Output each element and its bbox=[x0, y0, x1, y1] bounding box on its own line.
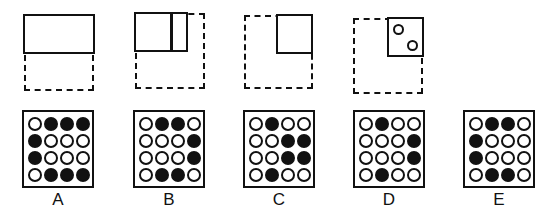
empty-circle-icon bbox=[297, 117, 311, 131]
empty-circle-icon bbox=[249, 134, 263, 148]
filled-circle-icon bbox=[155, 168, 169, 182]
empty-circle-icon bbox=[265, 151, 279, 165]
empty-circle-icon bbox=[155, 134, 169, 148]
empty-circle-icon bbox=[517, 134, 531, 148]
filled-circle-icon bbox=[469, 134, 483, 148]
empty-circle-icon bbox=[139, 134, 153, 148]
empty-circle-icon bbox=[44, 134, 58, 148]
empty-circle-icon bbox=[171, 151, 185, 165]
empty-circle-icon bbox=[469, 168, 483, 182]
option-label: C bbox=[259, 190, 299, 208]
filled-circle-icon bbox=[265, 117, 279, 131]
empty-circle-icon bbox=[187, 117, 201, 131]
empty-circle-icon bbox=[76, 134, 90, 148]
empty-circle-icon bbox=[187, 168, 201, 182]
filled-circle-icon bbox=[407, 134, 421, 148]
fig4-solid-square bbox=[387, 17, 424, 57]
option-grid-c[interactable] bbox=[243, 110, 315, 188]
filled-circle-icon bbox=[76, 168, 90, 182]
empty-circle-icon bbox=[249, 168, 263, 182]
fig3-solid-square bbox=[276, 14, 313, 54]
empty-circle-icon bbox=[391, 151, 405, 165]
empty-circle-icon bbox=[139, 117, 153, 131]
option-label: A bbox=[38, 190, 78, 208]
filled-circle-icon bbox=[407, 151, 421, 165]
empty-circle-icon bbox=[171, 134, 185, 148]
empty-circle-icon bbox=[501, 134, 515, 148]
filled-circle-icon bbox=[28, 134, 42, 148]
fig1-solid-rect bbox=[23, 14, 95, 54]
option-grid-e[interactable] bbox=[463, 110, 535, 188]
empty-circle-icon bbox=[407, 168, 421, 182]
filled-circle-icon bbox=[501, 117, 515, 131]
filled-circle-icon bbox=[28, 151, 42, 165]
filled-circle-icon bbox=[375, 117, 389, 131]
empty-circle-icon bbox=[76, 151, 90, 165]
option-grid-a[interactable] bbox=[22, 110, 94, 188]
filled-circle-icon bbox=[60, 168, 74, 182]
option-label: D bbox=[369, 190, 409, 208]
empty-circle-icon bbox=[359, 168, 373, 182]
empty-circle-icon bbox=[249, 117, 263, 131]
empty-circle-icon bbox=[391, 168, 405, 182]
empty-circle-icon bbox=[407, 117, 421, 131]
empty-circle-icon bbox=[60, 151, 74, 165]
empty-circle-icon bbox=[139, 151, 153, 165]
filled-circle-icon bbox=[485, 168, 499, 182]
filled-circle-icon bbox=[501, 168, 515, 182]
empty-circle-icon bbox=[281, 168, 295, 182]
empty-circle-icon bbox=[375, 134, 389, 148]
filled-circle-icon bbox=[171, 117, 185, 131]
filled-circle-icon bbox=[171, 168, 185, 182]
filled-circle-icon bbox=[297, 151, 311, 165]
empty-circle-icon bbox=[139, 168, 153, 182]
empty-circle-icon bbox=[297, 168, 311, 182]
filled-circle-icon bbox=[155, 117, 169, 131]
filled-circle-icon bbox=[44, 117, 58, 131]
option-grid-b[interactable] bbox=[133, 110, 205, 188]
empty-circle-icon bbox=[265, 134, 279, 148]
filled-circle-icon bbox=[187, 151, 201, 165]
empty-circle-icon bbox=[359, 151, 373, 165]
empty-circle-icon bbox=[501, 151, 515, 165]
empty-circle-icon bbox=[359, 117, 373, 131]
filled-circle-icon bbox=[265, 168, 279, 182]
filled-circle-icon bbox=[297, 134, 311, 148]
empty-circle-icon bbox=[517, 168, 531, 182]
filled-circle-icon bbox=[375, 168, 389, 182]
empty-circle-icon bbox=[28, 168, 42, 182]
filled-circle-icon bbox=[187, 134, 201, 148]
fig4-circle-icon bbox=[393, 24, 404, 35]
empty-circle-icon bbox=[375, 151, 389, 165]
option-label: B bbox=[149, 190, 189, 208]
empty-circle-icon bbox=[44, 151, 58, 165]
filled-circle-icon bbox=[44, 168, 58, 182]
empty-circle-icon bbox=[469, 117, 483, 131]
empty-circle-icon bbox=[517, 117, 531, 131]
empty-circle-icon bbox=[359, 134, 373, 148]
fig4-circle-icon bbox=[407, 40, 418, 51]
empty-circle-icon bbox=[485, 151, 499, 165]
empty-circle-icon bbox=[485, 134, 499, 148]
filled-circle-icon bbox=[281, 151, 295, 165]
option-grid-d[interactable] bbox=[353, 110, 425, 188]
empty-circle-icon bbox=[28, 117, 42, 131]
filled-circle-icon bbox=[76, 117, 90, 131]
fig2-divider-line bbox=[170, 13, 173, 51]
filled-circle-icon bbox=[60, 117, 74, 131]
empty-circle-icon bbox=[517, 151, 531, 165]
fig2-solid-rect bbox=[134, 12, 188, 52]
filled-circle-icon bbox=[469, 151, 483, 165]
empty-circle-icon bbox=[281, 117, 295, 131]
empty-circle-icon bbox=[60, 134, 74, 148]
filled-circle-icon bbox=[281, 134, 295, 148]
empty-circle-icon bbox=[391, 117, 405, 131]
option-label: E bbox=[479, 190, 519, 208]
empty-circle-icon bbox=[391, 134, 405, 148]
empty-circle-icon bbox=[155, 151, 169, 165]
filled-circle-icon bbox=[485, 117, 499, 131]
empty-circle-icon bbox=[249, 151, 263, 165]
